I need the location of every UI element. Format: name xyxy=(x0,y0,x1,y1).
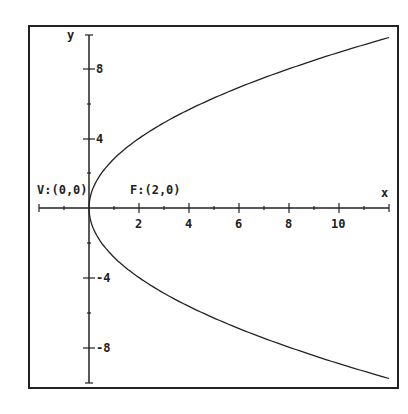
y-tick-label-neg8: -8 xyxy=(96,342,110,354)
x-tick-label-4: 4 xyxy=(185,218,192,230)
y-tick-label-4: 4 xyxy=(96,133,103,145)
y-tick-label-8: 8 xyxy=(96,63,103,75)
plot-area xyxy=(0,0,408,414)
focus-annotation: F:(2,0) xyxy=(130,184,181,196)
y-tick-label-neg4: -4 xyxy=(96,272,110,284)
x-tick-label-8: 8 xyxy=(285,218,292,230)
x-tick-label-6: 6 xyxy=(235,218,242,230)
x-tick-label-2: 2 xyxy=(135,218,142,230)
y-axis-label: y xyxy=(67,29,74,41)
vertex-annotation: V:(0,0) xyxy=(37,184,88,196)
x-tick-label-10: 10 xyxy=(331,218,345,230)
x-axis-label: x xyxy=(381,187,388,199)
